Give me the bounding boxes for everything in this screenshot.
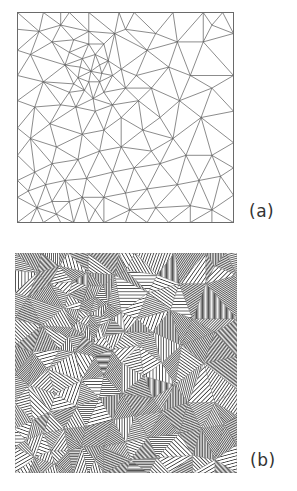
- mesh-edge: [37, 208, 56, 214]
- mesh-edge: [69, 202, 73, 223]
- mesh-edge: [80, 59, 82, 67]
- mesh-edge: [201, 118, 233, 143]
- mesh-edge: [30, 139, 34, 173]
- mesh-edge: [147, 34, 156, 51]
- mesh-edge: [76, 107, 95, 111]
- mesh-edge: [201, 88, 212, 117]
- mesh-edge: [169, 67, 191, 75]
- panel-a-label: (a): [249, 201, 274, 221]
- mesh-edge: [95, 111, 104, 130]
- mesh-edge: [134, 168, 147, 189]
- mesh-edge: [74, 40, 89, 44]
- mesh-edge: [56, 202, 69, 215]
- mesh-edge: [104, 88, 126, 92]
- mesh-edge: [35, 105, 61, 107]
- mesh-edge: [74, 31, 89, 39]
- mesh-edge: [65, 65, 74, 84]
- mesh-edge: [203, 13, 212, 26]
- mesh-edge: [61, 25, 89, 31]
- mesh-edge: [212, 155, 221, 176]
- mesh-edge: [65, 65, 78, 78]
- mesh-edge: [82, 197, 88, 222]
- mesh-edge: [169, 206, 191, 223]
- mesh-edge: [84, 82, 88, 90]
- mesh-edge: [74, 78, 78, 84]
- mesh-edge: [223, 13, 234, 34]
- mesh-edge: [95, 44, 104, 55]
- mesh-edge: [18, 50, 31, 54]
- mesh-edge: [35, 107, 50, 124]
- mesh-edge: [212, 155, 234, 168]
- mesh-edge: [173, 139, 186, 156]
- panel-b-mesh-hatched: [15, 253, 237, 473]
- mesh-edge: [82, 134, 99, 151]
- mesh-edge: [95, 210, 104, 223]
- mesh-edge: [212, 13, 223, 26]
- mesh-edge: [93, 92, 104, 98]
- mesh-edge: [221, 168, 234, 176]
- mesh-edge: [115, 29, 126, 33]
- mesh-edge: [126, 29, 156, 33]
- mesh-edge: [156, 208, 169, 223]
- mesh-edge: [87, 172, 113, 178]
- mesh-edge: [35, 164, 52, 172]
- mesh-edge: [104, 92, 113, 105]
- mesh-edge: [89, 31, 115, 33]
- mesh-edge: [50, 124, 82, 135]
- mesh-edge: [69, 52, 82, 58]
- mesh-edge: [126, 193, 130, 210]
- mesh-edge: [126, 29, 148, 50]
- mesh-edge: [147, 42, 177, 50]
- mesh-edge: [65, 160, 78, 181]
- mesh-edge: [61, 105, 76, 107]
- mesh-edge: [115, 34, 147, 51]
- mesh-edge: [221, 176, 234, 195]
- mesh-edge: [203, 25, 212, 42]
- mesh-edge: [39, 31, 52, 42]
- mesh-edge: [147, 50, 169, 67]
- mesh-edge: [18, 181, 29, 192]
- mesh-edge: [201, 111, 233, 117]
- mesh-edge: [115, 34, 121, 70]
- mesh-edge: [126, 13, 135, 30]
- mesh-edge: [121, 147, 151, 151]
- mesh-edge: [212, 25, 234, 33]
- mesh-edge: [115, 13, 119, 34]
- mesh-edge: [102, 73, 113, 75]
- mesh-edge: [143, 130, 152, 151]
- mesh-edge: [104, 118, 121, 131]
- mesh-edge: [18, 101, 35, 107]
- mesh-edge: [76, 90, 85, 107]
- mesh-edge: [156, 185, 178, 208]
- mesh-edge: [173, 13, 177, 42]
- mesh-edge: [18, 29, 40, 31]
- mesh-edge: [69, 92, 75, 107]
- mesh-edge: [52, 25, 61, 42]
- mesh-edge: [177, 185, 190, 206]
- mesh-edge: [52, 147, 56, 164]
- mesh-edge: [43, 65, 65, 82]
- mesh-edge: [147, 208, 156, 223]
- mesh-edge: [156, 34, 178, 42]
- mesh-edge: [212, 76, 234, 89]
- mesh-edge: [18, 76, 44, 82]
- mesh-edge: [78, 67, 80, 78]
- mesh-edge: [46, 185, 52, 202]
- mesh-edge: [203, 42, 233, 76]
- mesh-edge: [138, 101, 142, 130]
- mesh-edge: [147, 185, 177, 189]
- mesh-edge: [147, 189, 156, 208]
- mesh-edge: [119, 13, 125, 30]
- mesh-edge: [104, 172, 113, 197]
- mesh-edge: [18, 82, 44, 101]
- mesh-edge: [151, 151, 160, 164]
- mesh-edge: [212, 88, 234, 111]
- mesh-edge: [138, 88, 151, 101]
- mesh-edge: [126, 88, 139, 101]
- mesh-edge: [104, 34, 115, 45]
- mesh-edge: [95, 105, 112, 111]
- mesh-edge: [93, 99, 112, 105]
- mesh-edge: [28, 185, 45, 191]
- mesh-edge: [52, 202, 56, 215]
- mesh-edge: [100, 130, 104, 151]
